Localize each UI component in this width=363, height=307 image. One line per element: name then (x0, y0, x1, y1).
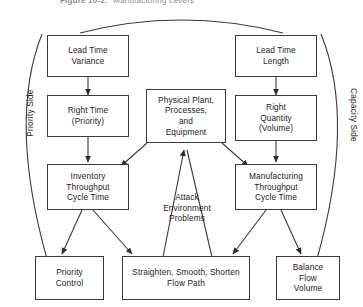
node-right-quantity-volume[interactable]: RightQuantity(Volume) (235, 95, 317, 141)
arc-right (317, 34, 338, 259)
side-label-priority: Priority Side (25, 89, 35, 136)
node-lead-time-length[interactable]: Lead TimeLength (235, 35, 317, 77)
node-lead-time-variance[interactable]: Lead TimeVariance (47, 35, 129, 77)
node-label: Right Time(Priority) (66, 105, 111, 126)
node-label: Lead TimeVariance (66, 45, 110, 66)
node-label: ManufacturingThroughputCycle Time (247, 171, 305, 203)
arc-left (26, 34, 47, 259)
figure-canvas: Figure 10-2.Manufacturing Levers (0, 0, 363, 307)
label-attack-environment-problems: AttackEnvironmentProblems (145, 192, 229, 224)
node-label: InventoryThroughputCycle Time (64, 171, 111, 203)
node-label: Lead TimeLength (254, 45, 298, 66)
edge-mtct-to-sfp (233, 210, 266, 254)
node-physical-plant[interactable]: Physical Plant,Processes,andEquipment (146, 89, 226, 143)
node-label: Straighten, Smooth, ShortenFlow Path (130, 267, 241, 288)
node-right-time-priority[interactable]: Right Time(Priority) (47, 95, 129, 137)
edge-pp-to-itct (121, 143, 147, 166)
side-label-capacity: Capacity Side (349, 88, 359, 142)
edge-pp-to-mtct (222, 143, 248, 166)
node-label: Physical Plant,Processes,andEquipment (156, 95, 216, 137)
node-label: PriorityControl (54, 267, 85, 288)
node-label: RightQuantity(Volume) (257, 102, 295, 134)
free-label-text: AttackEnvironmentProblems (163, 192, 211, 223)
arc-top (80, 20, 283, 33)
node-priority-control[interactable]: PriorityControl (35, 256, 104, 300)
node-manufacturing-throughput[interactable]: ManufacturingThroughputCycle Time (235, 164, 317, 210)
edge-itct-to-sfp (93, 210, 132, 254)
node-straighten-flow-path[interactable]: Straighten, Smooth, ShortenFlow Path (122, 256, 250, 300)
edge-mtct-to-bfv (281, 210, 301, 254)
node-inventory-throughput[interactable]: InventoryThroughputCycle Time (47, 164, 129, 210)
edge-itct-to-pc (62, 210, 82, 254)
node-balance-flow-volume[interactable]: BalanceFlowVolume (276, 256, 340, 300)
node-label: BalanceFlowVolume (291, 262, 326, 294)
